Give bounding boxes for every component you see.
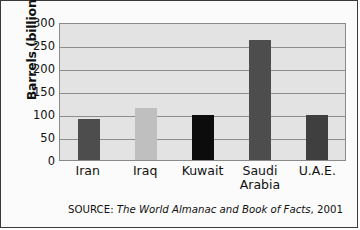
x-tick-label-line: U.A.E.	[289, 164, 346, 178]
y-tick-label: 200	[33, 62, 55, 76]
x-tick-label-line: Saudi	[231, 164, 288, 178]
bar-chart-figure: Barrels (billions) 300250200150100500 Ir…	[0, 0, 358, 228]
bar	[78, 119, 100, 160]
source-prefix: SOURCE:	[68, 204, 117, 215]
y-tick-label: 50	[40, 131, 55, 145]
y-axis-tick-labels: 300250200150100500	[23, 23, 55, 161]
x-tick-label: Kuwait	[174, 164, 231, 192]
plot-area	[59, 23, 346, 161]
y-tick-label: 250	[33, 39, 55, 53]
x-tick-label-line: Kuwait	[174, 164, 231, 178]
y-tick-label: 0	[48, 154, 55, 168]
bar-slot	[288, 24, 345, 160]
x-tick-label-line: Iran	[59, 164, 116, 178]
source-title: The World Almanac and Book of Facts	[117, 204, 311, 215]
bar	[249, 40, 271, 160]
x-axis-tick-labels: IranIraqKuwaitSaudiArabiaU.A.E.	[59, 164, 346, 192]
bar-slot	[231, 24, 288, 160]
bar-series	[60, 24, 345, 160]
bar	[192, 115, 214, 160]
source-suffix: , 2001	[311, 204, 343, 215]
bar-slot	[174, 24, 231, 160]
y-tick-label: 150	[33, 85, 55, 99]
x-tick-label-line: Arabia	[231, 178, 288, 192]
x-tick-label: Iran	[59, 164, 116, 192]
x-tick-label: SaudiArabia	[231, 164, 288, 192]
source-caption: SOURCE: The World Almanac and Book of Fa…	[1, 204, 343, 215]
bar-slot	[117, 24, 174, 160]
bar	[306, 115, 328, 160]
bar-slot	[60, 24, 117, 160]
y-tick-label: 100	[33, 108, 55, 122]
x-tick-label: Iraq	[116, 164, 173, 192]
bar	[135, 108, 157, 160]
x-tick-label: U.A.E.	[289, 164, 346, 192]
x-tick-label-line: Iraq	[116, 164, 173, 178]
y-tick-label: 300	[33, 16, 55, 30]
